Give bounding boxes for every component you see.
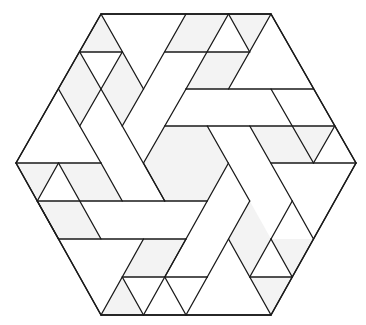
edge-line	[186, 277, 207, 315]
shaded-tile	[271, 239, 314, 277]
hexagon-pattern-diagram	[0, 0, 366, 325]
edge-line	[292, 201, 313, 239]
shaded-tile	[37, 201, 101, 239]
shaded-tile	[186, 52, 250, 89]
shaded-tile	[59, 163, 123, 201]
center-hexagon-tile	[144, 126, 229, 201]
center-hexagon	[144, 126, 229, 201]
shaded-tile	[229, 201, 272, 277]
shaded-tile	[250, 277, 293, 315]
edge-line	[165, 277, 186, 315]
shaded-tile	[165, 14, 229, 52]
shaded-tile	[80, 14, 123, 52]
shaded-tile	[59, 52, 102, 126]
shaded-tile	[229, 14, 272, 52]
shaded-tile	[101, 277, 144, 315]
shaded-tile	[16, 163, 59, 201]
shaded-tile	[101, 52, 144, 126]
diagram-canvas	[0, 0, 366, 325]
edge-line	[271, 201, 292, 239]
shaded-tile	[122, 239, 186, 277]
